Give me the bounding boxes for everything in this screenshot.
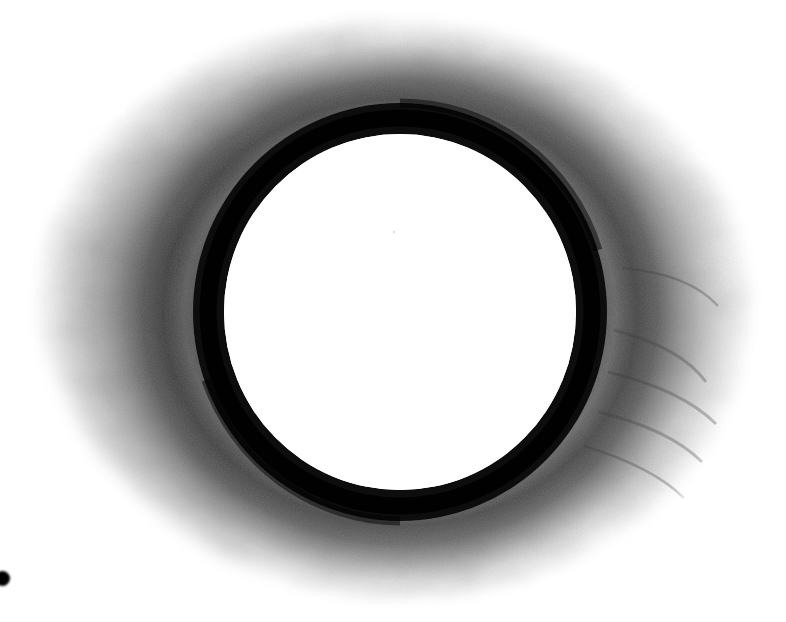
micrograph-canvas [0, 0, 786, 622]
lumen-speck [393, 231, 396, 234]
inner-white-lumen [224, 134, 576, 490]
micrograph-image [0, 0, 786, 622]
